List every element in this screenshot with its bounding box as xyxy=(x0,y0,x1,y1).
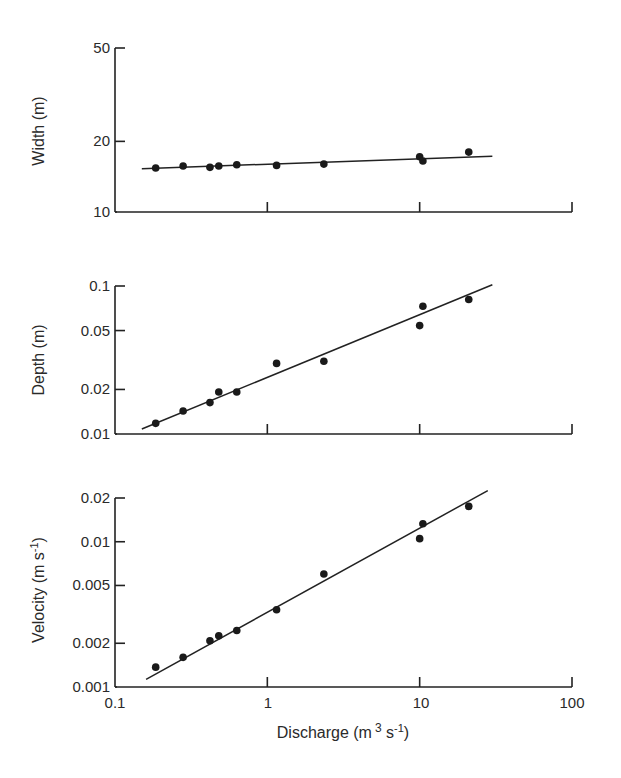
y-tick-label: 0.002 xyxy=(72,634,110,651)
data-point xyxy=(206,637,214,645)
panel-velocity: 0.0010.0020.0050.010.02 xyxy=(72,489,572,695)
y-axis-title-velocity: Velocity (m s-1) xyxy=(28,537,47,643)
data-point xyxy=(206,164,214,172)
regression-line xyxy=(142,285,493,429)
y-tick-label: 0.005 xyxy=(72,576,110,593)
y-axis-title-depth: Depth (m) xyxy=(30,324,47,395)
data-point xyxy=(320,570,328,578)
data-point xyxy=(152,663,160,671)
data-point xyxy=(465,296,473,304)
data-point xyxy=(179,162,187,170)
panel-depth: 0.010.020.050.1 xyxy=(81,277,572,442)
data-point xyxy=(179,407,187,415)
x-tick-label: 1 xyxy=(264,694,272,711)
data-point xyxy=(273,360,281,368)
y-tick-label: 0.02 xyxy=(81,489,110,506)
data-point xyxy=(273,606,281,614)
y-tick-label: 0.01 xyxy=(81,533,110,550)
data-point xyxy=(233,388,241,396)
data-point xyxy=(206,399,214,407)
y-tick-label: 10 xyxy=(93,203,110,220)
regression-line xyxy=(142,156,493,169)
y-axis-title-width: Width (m) xyxy=(30,96,47,165)
data-point xyxy=(152,420,160,428)
y-tick-label: 0.01 xyxy=(81,425,110,442)
data-point xyxy=(320,160,328,168)
y-tick-label: 20 xyxy=(93,132,110,149)
x-tick-label: 10 xyxy=(413,694,430,711)
data-point xyxy=(233,627,241,635)
data-point xyxy=(233,161,241,169)
regression-line xyxy=(146,491,488,680)
data-point xyxy=(273,162,281,170)
data-point xyxy=(419,302,427,310)
data-point xyxy=(215,632,223,640)
figure: 1020500.010.020.050.10.0010.0020.0050.01… xyxy=(0,0,621,778)
y-tick-label: 0.1 xyxy=(89,277,110,294)
x-axis-title: Discharge (m3 s-1) xyxy=(277,721,409,741)
y-tick-label: 0.02 xyxy=(81,380,110,397)
x-tick-label: 0.1 xyxy=(105,694,126,711)
x-tick-label: 100 xyxy=(559,694,584,711)
data-point xyxy=(419,157,427,165)
data-point xyxy=(416,535,424,543)
data-point xyxy=(320,357,328,365)
data-point xyxy=(152,164,160,172)
data-point xyxy=(465,503,473,511)
y-tick-label: 50 xyxy=(93,39,110,56)
panel-width: 102050 xyxy=(93,39,572,220)
y-tick-label: 0.001 xyxy=(72,678,110,695)
y-tick-label: 0.05 xyxy=(81,322,110,339)
data-point xyxy=(215,388,223,396)
data-point xyxy=(215,162,223,170)
data-point xyxy=(416,322,424,330)
data-point xyxy=(465,148,473,156)
data-point xyxy=(179,654,187,662)
data-point xyxy=(419,520,427,528)
x-axis-tick-labels: 0.1 1 10 100 xyxy=(105,694,585,711)
